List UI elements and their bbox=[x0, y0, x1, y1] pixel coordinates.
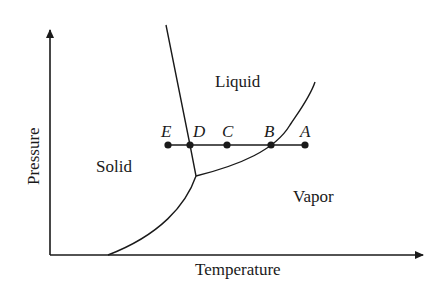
point-b-label: B bbox=[264, 122, 275, 141]
y-axis-label: Pressure bbox=[24, 127, 43, 185]
point-c-marker bbox=[223, 141, 230, 148]
vaporization-curve bbox=[196, 82, 315, 176]
region-vapor-label: Vapor bbox=[293, 187, 334, 206]
sublimation-curve bbox=[108, 176, 196, 255]
point-c-label: C bbox=[222, 122, 234, 141]
phase-diagram: E D C B A Liquid Solid Vapor Temperature… bbox=[0, 0, 444, 291]
melting-curve bbox=[166, 25, 196, 176]
region-liquid-label: Liquid bbox=[215, 72, 261, 91]
region-solid-label: Solid bbox=[96, 157, 132, 176]
point-a-marker bbox=[301, 141, 308, 148]
point-e-marker bbox=[164, 141, 171, 148]
point-d-marker bbox=[186, 141, 193, 148]
point-a-label: A bbox=[299, 122, 311, 141]
x-axis-label: Temperature bbox=[195, 260, 281, 279]
point-d-label: D bbox=[192, 122, 206, 141]
point-b-marker bbox=[267, 141, 274, 148]
point-e-label: E bbox=[160, 122, 172, 141]
